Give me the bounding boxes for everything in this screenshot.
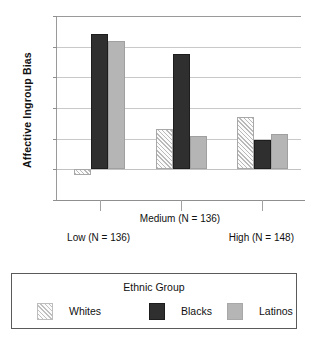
y-tick-mark <box>53 200 57 201</box>
gridline <box>57 169 301 170</box>
bar-blacks-low <box>91 34 108 169</box>
bar-blacks-high <box>254 140 271 169</box>
y-axis-title: Affective Ingroup Bias <box>21 25 33 195</box>
y-tick-mark <box>53 16 57 17</box>
gridline <box>57 16 301 17</box>
legend-swatch-whites <box>37 303 53 320</box>
bar-chart-figure: Affective Ingroup Bias 2.521.510.50-0.5 … <box>0 0 312 347</box>
legend-swatch-blacks <box>149 303 165 320</box>
y-tick-mark <box>53 139 57 140</box>
category-separator <box>262 200 263 211</box>
category-separator <box>181 200 182 211</box>
bar-whites-low <box>74 169 91 175</box>
bar-latinos-medium <box>190 136 207 170</box>
bar-latinos-low <box>108 41 125 170</box>
bar-whites-medium <box>156 129 173 169</box>
x-axis-label-low: Low (N = 136) <box>67 232 130 243</box>
y-tick-mark <box>53 47 57 48</box>
chart-plot-region: Affective Ingroup Bias 2.521.510.50-0.5 … <box>0 0 312 258</box>
legend-swatch-latinos <box>227 303 243 320</box>
legend-label-whites: Whites <box>69 305 101 317</box>
category-separator <box>100 200 101 211</box>
y-tick-mark <box>53 108 57 109</box>
y-tick-mark <box>53 77 57 78</box>
y-tick-mark <box>53 169 57 170</box>
legend-title: Ethnic Group <box>12 281 296 293</box>
bar-blacks-medium <box>173 54 190 169</box>
bar-whites-high <box>237 117 254 169</box>
legend-label-latinos: Latinos <box>259 305 293 317</box>
chart-legend: Ethnic Group WhitesBlacksLatinos <box>11 273 297 329</box>
x-axis-label-medium: Medium (N = 136) <box>140 213 220 224</box>
legend-label-blacks: Blacks <box>181 305 212 317</box>
x-axis-label-high: High (N = 148) <box>229 232 294 243</box>
bar-latinos-high <box>271 134 288 170</box>
plot-area: 2.521.510.50-0.5 <box>56 16 300 200</box>
